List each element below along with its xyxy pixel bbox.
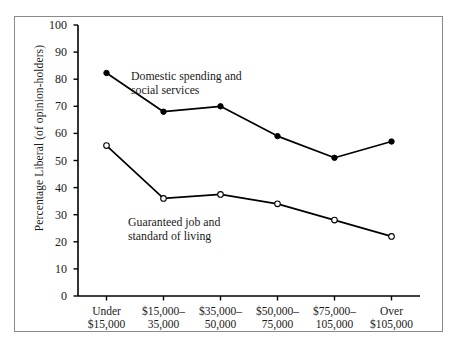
annotation-line: social services — [131, 84, 242, 98]
x-tick-label-line: $105,000 — [350, 318, 434, 331]
y-tick-label: 30 — [41, 209, 67, 221]
annotation-line: standard of living — [128, 230, 220, 244]
series-annotation-domestic-spending: Domestic spending andsocial services — [131, 70, 242, 97]
y-tick-label: 80 — [41, 73, 67, 85]
x-tick-label: Over$105,000 — [350, 305, 434, 330]
y-tick-label: 70 — [41, 100, 67, 112]
y-tick-label: 90 — [41, 46, 67, 58]
y-tick-label: 60 — [41, 127, 67, 139]
y-tick-label: 50 — [41, 155, 67, 167]
y-tick-label: 100 — [41, 19, 67, 31]
line-chart-plot — [0, 0, 459, 350]
series-annotation-guaranteed-job: Guaranteed job andstandard of living — [128, 216, 220, 243]
y-tick-label: 20 — [41, 236, 67, 248]
y-tick-label: 10 — [41, 263, 67, 275]
annotation-line: Guaranteed job and — [128, 216, 220, 230]
figure-container: Percentage Liberal (of opinion-holders) … — [0, 0, 459, 350]
y-tick-label: 0 — [41, 290, 67, 302]
x-tick-label-line: Over — [350, 305, 434, 318]
y-tick-label: 40 — [41, 182, 67, 194]
annotation-line: Domestic spending and — [131, 70, 242, 84]
